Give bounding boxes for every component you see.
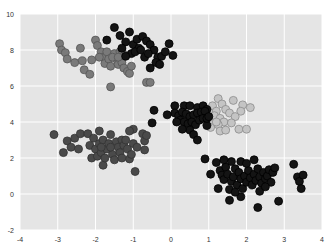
data-point (137, 46, 145, 54)
data-point (114, 53, 122, 61)
data-point (254, 204, 262, 212)
data-point (169, 51, 177, 59)
data-point (122, 136, 130, 144)
data-point (201, 155, 209, 163)
data-point (71, 59, 79, 67)
x-tick-label: 1 (207, 236, 211, 243)
data-point (156, 60, 164, 68)
data-point (107, 143, 115, 151)
y-tick-label: 4 (10, 119, 14, 126)
data-point (107, 62, 115, 70)
data-point (148, 119, 156, 127)
data-point (161, 48, 169, 56)
data-point (95, 127, 103, 135)
y-tick-label: 0 (10, 191, 14, 198)
data-point (207, 170, 215, 178)
data-point (110, 156, 118, 164)
data-point (243, 159, 251, 167)
data-point (275, 197, 283, 205)
data-point (78, 57, 86, 65)
data-point (297, 185, 305, 193)
data-point (126, 127, 134, 135)
data-point (141, 146, 149, 154)
data-point (103, 36, 111, 44)
data-point (299, 171, 307, 179)
data-point (127, 62, 135, 70)
data-point (163, 111, 171, 119)
y-axis-tick-labels: -20246810 (6, 11, 14, 234)
data-point (67, 143, 75, 151)
data-point (178, 125, 186, 133)
data-point (203, 122, 211, 130)
data-point (59, 149, 67, 157)
data-point (95, 53, 103, 61)
y-tick-label: 2 (10, 155, 14, 162)
scatter-chart: -4-3-2-101234 -20246810 (0, 0, 328, 250)
data-point (118, 154, 126, 162)
data-point (290, 160, 298, 168)
data-point (122, 52, 130, 60)
y-tick-label: 8 (10, 47, 14, 54)
data-point (205, 113, 213, 121)
data-point (222, 126, 230, 134)
data-point (246, 104, 254, 112)
x-tick-label: -2 (92, 236, 98, 243)
data-point (261, 183, 269, 191)
data-point (243, 125, 251, 133)
data-point (165, 40, 173, 48)
data-point (133, 143, 141, 151)
x-tick-label: -3 (55, 236, 61, 243)
x-tick-label: 3 (282, 236, 286, 243)
data-point (88, 56, 96, 64)
x-tick-label: -4 (17, 236, 23, 243)
data-point (63, 55, 71, 63)
data-point (220, 156, 228, 164)
data-point (101, 154, 109, 162)
data-point (126, 69, 134, 77)
data-point (131, 168, 139, 176)
data-point (118, 44, 126, 52)
data-point (212, 118, 220, 126)
data-point (150, 106, 158, 114)
data-point (146, 64, 154, 72)
data-point (86, 70, 94, 78)
y-tick-label: 10 (6, 11, 14, 18)
data-point (235, 125, 243, 133)
data-point (50, 131, 58, 139)
data-point (212, 159, 220, 167)
data-point (107, 83, 115, 91)
data-point (193, 136, 201, 144)
data-point (97, 143, 105, 151)
data-point (250, 156, 258, 164)
data-point (126, 28, 134, 36)
data-point (116, 32, 124, 40)
data-point (107, 131, 115, 139)
data-point (76, 44, 84, 52)
data-point (76, 130, 84, 138)
x-tick-label: 0 (169, 236, 173, 243)
data-point (271, 164, 279, 172)
data-point (99, 161, 107, 169)
data-point (173, 118, 181, 126)
data-point (143, 132, 151, 140)
data-point (127, 150, 135, 158)
data-point (231, 188, 239, 196)
x-tick-label: 4 (320, 236, 324, 243)
y-tick-label: -2 (8, 227, 14, 234)
data-point (227, 119, 235, 127)
y-tick-label: 6 (10, 83, 14, 90)
x-axis-tick-labels: -4-3-2-101234 (17, 236, 324, 243)
data-point (186, 102, 194, 110)
data-point (110, 24, 118, 32)
data-point (227, 158, 235, 166)
x-tick-label: -1 (130, 236, 136, 243)
data-point (146, 78, 154, 86)
data-point (75, 145, 83, 153)
data-point (229, 96, 237, 104)
data-point (214, 185, 222, 193)
data-point (226, 196, 234, 204)
x-tick-label: 2 (245, 236, 249, 243)
data-point (144, 50, 152, 58)
